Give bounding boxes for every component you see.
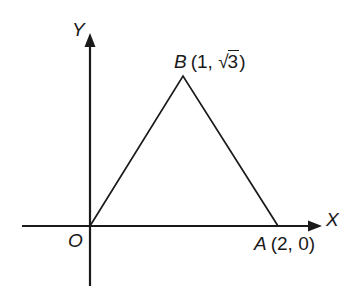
radical-sign: √ xyxy=(218,51,228,72)
point-label-b: B(1, √3) xyxy=(174,52,245,71)
radicand-value: 3 xyxy=(228,50,240,72)
y-axis-arrowhead xyxy=(85,33,96,47)
origin-label: O xyxy=(68,231,83,250)
x-axis-arrowhead xyxy=(308,221,322,232)
x-axis-label: X xyxy=(326,210,339,229)
point-label-a: A(2, 0) xyxy=(254,234,315,253)
point-a-name: A xyxy=(254,233,271,254)
point-b-coords-suffix: ) xyxy=(239,51,245,72)
triangle-oab xyxy=(90,76,278,226)
point-a-coords: (2, 0) xyxy=(271,233,315,254)
point-b-coords-prefix: (1, xyxy=(191,51,218,72)
coordinate-diagram: Y X O B(1, √3) A(2, 0) xyxy=(0,0,360,292)
point-b-name: B xyxy=(174,51,191,72)
y-axis-label: Y xyxy=(72,20,85,39)
